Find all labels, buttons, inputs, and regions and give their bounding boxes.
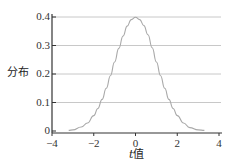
x-tick-label: 4 <box>216 137 222 149</box>
x-ticks: −4−2024 <box>46 133 222 149</box>
chart: 00.10.20.30.4 −4−2024 分布 t值 <box>0 0 232 165</box>
y-tick-label: 0.1 <box>36 96 50 108</box>
gridlines <box>52 17 221 103</box>
x-tick-label: −2 <box>88 137 100 149</box>
y-tick-label: 0.4 <box>36 10 50 22</box>
y-tick-label: 0.3 <box>36 39 50 51</box>
y-tick-label: 0.2 <box>36 67 50 79</box>
y-tick-label: 0 <box>45 124 51 136</box>
x-axis-label-rest: 值 <box>133 148 144 161</box>
y-axis-label: 分布 <box>7 66 29 79</box>
x-tick-label: −4 <box>46 137 58 149</box>
y-ticks: 00.10.20.30.4 <box>36 10 56 136</box>
x-tick-label: 2 <box>175 137 181 149</box>
x-axis-label: t值 <box>129 148 144 161</box>
